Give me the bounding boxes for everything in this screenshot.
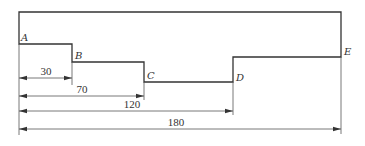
point-label-a: A [20,32,28,43]
profile-outline [19,12,341,82]
dimension-value-120: 120 [124,98,141,110]
dimension-value-30: 30 [41,65,53,77]
point-label-b: B [74,50,82,61]
point-label-e: E [343,46,352,57]
stepped-profile-diagram: 30 70 120 180 A B C D E [0,0,365,146]
point-label-c: C [147,70,155,81]
dimension-value-70: 70 [77,83,89,95]
dimension-value-180: 180 [168,116,185,128]
point-label-d: D [235,72,244,83]
